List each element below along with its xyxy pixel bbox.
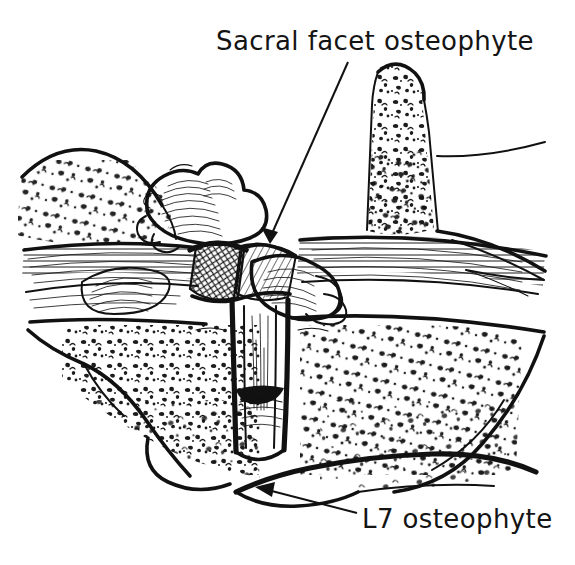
l7-osteophyte-label: L7 osteophyte <box>362 504 553 534</box>
medical-illustration-figure <box>0 0 575 565</box>
facet-joint-cartilage <box>190 242 296 302</box>
illustration-canvas <box>0 0 575 565</box>
sacral-facet-osteophyte-label: Sacral facet osteophyte <box>216 26 534 56</box>
